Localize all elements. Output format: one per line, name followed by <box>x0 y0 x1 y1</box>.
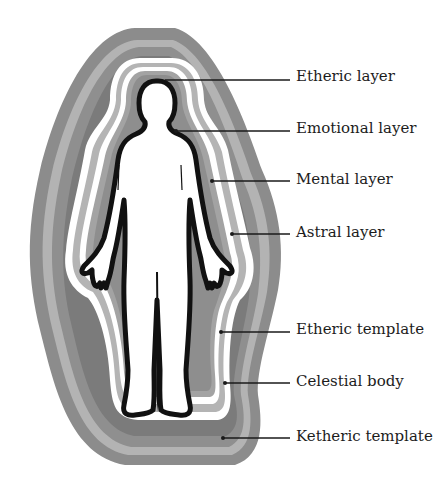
dot-ketheric-template <box>221 436 225 440</box>
label-etheric-template: Etheric template <box>296 320 424 338</box>
label-emotional-layer: Emotional layer <box>296 119 417 137</box>
dot-etheric-template <box>219 330 223 334</box>
layer-labels: Etheric layer Emotional layer Mental lay… <box>295 67 433 445</box>
label-mental-layer: Mental layer <box>296 170 394 188</box>
label-ketheric-template: Ketheric template <box>296 427 433 445</box>
dot-celestial-body <box>223 381 227 385</box>
label-celestial-body: Celestial body <box>296 372 404 390</box>
dot-astral-layer <box>230 232 234 236</box>
label-etheric-layer: Etheric layer <box>296 67 396 85</box>
aura-layers-diagram: Etheric layer Emotional layer Mental lay… <box>0 0 435 491</box>
label-astral-layer: Astral layer <box>295 223 385 241</box>
dot-mental-layer <box>210 179 214 183</box>
dot-emotional-layer <box>174 129 178 133</box>
